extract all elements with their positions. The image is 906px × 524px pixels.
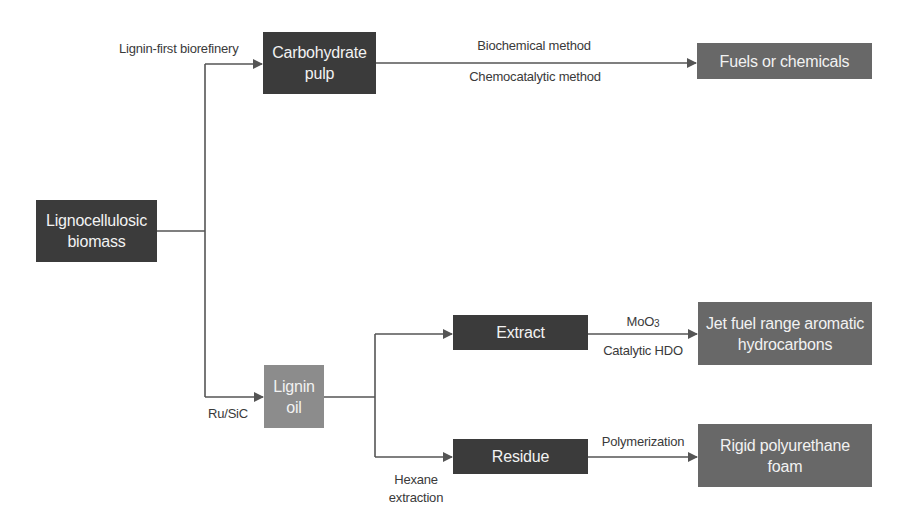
node-label: Extract [496,322,544,343]
node-label: pulp [272,63,367,84]
hexane-line1: Hexane [376,471,456,489]
edge-label-polymerization: Polymerization [595,434,691,450]
edge-label-catalytic-hdo: Catalytic HDO [595,343,691,359]
node-extract: Extract [453,315,588,350]
node-lignin-oil: Lignin oil [264,365,324,428]
node-label: Rigid polyurethane [720,435,850,456]
node-label: Carbohydrate [272,42,367,63]
node-label: foam [720,456,850,477]
node-label: Lignin [273,376,315,397]
node-label: hydrocarbons [706,334,864,355]
edge-label-moo3: MoO3 [613,314,673,332]
edge-label-lignin-first: Lignin-first biorefinery [119,41,238,57]
node-residue: Residue [453,439,588,474]
node-label: Residue [492,446,549,467]
node-label: Lignocellulosic [46,210,147,231]
node-jet-fuel: Jet fuel range aromatic hydrocarbons [698,302,872,365]
edge-label-ru-sic: Ru/SiC [208,406,248,422]
node-label: Jet fuel range aromatic [706,313,864,334]
moo3-base: MoO [627,314,655,329]
node-fuels-or-chemicals: Fuels or chemicals [697,43,872,79]
node-label: biomass [46,231,147,252]
node-carbohydrate-pulp: Carbohydrate pulp [263,32,376,94]
edge-label-hexane-extraction: Hexane extraction [376,471,456,507]
flow-diagram: Lignocellulosic biomass Carbohydrate pul… [0,0,906,524]
node-label: Fuels or chemicals [720,51,850,72]
node-rigid-polyurethane-foam: Rigid polyurethane foam [698,424,872,487]
node-lignocellulosic-biomass: Lignocellulosic biomass [36,200,157,262]
hexane-line2: extraction [376,489,456,507]
edge-label-chemocatalytic: Chemocatalytic method [452,69,618,85]
edge-label-biochemical: Biochemical method [464,38,604,54]
node-label: oil [273,397,315,418]
moo3-subscript: 3 [654,318,659,329]
